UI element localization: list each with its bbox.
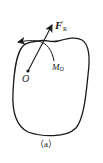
figure-caption: （a） [35, 140, 57, 149]
moment-arc [18, 41, 54, 61]
moment-label: MO [52, 63, 64, 72]
rigid-body-outline [13, 38, 89, 136]
point-o-label: O [22, 74, 29, 84]
resultant-force-label: F′R [55, 20, 67, 32]
